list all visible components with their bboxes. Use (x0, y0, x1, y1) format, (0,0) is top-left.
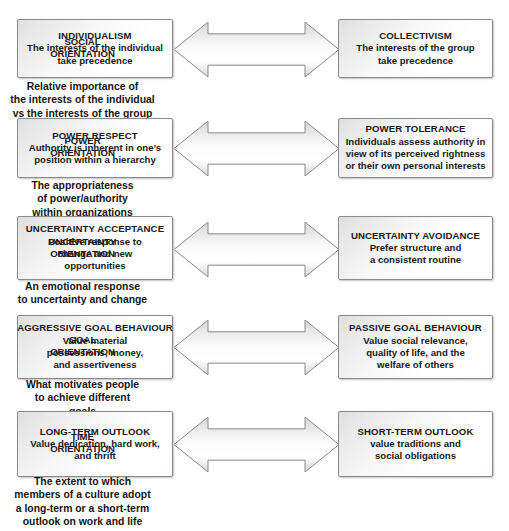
pole-title: POWER RESPECT (52, 130, 138, 142)
pole-description-line: possessions, money, (47, 347, 143, 359)
pole-box-left-power-orientation: POWER RESPECTAuthority is inherent in on… (17, 118, 173, 178)
orientation-caption-power-orientation: The appropriatenessof power/authoritywit… (0, 179, 173, 219)
pole-description-line: Prefer structure and (370, 242, 462, 254)
pole-description-line: social obligations (375, 450, 456, 462)
caption-line: An emotional response (0, 280, 173, 293)
double-headed-arrow-icon (174, 320, 339, 375)
pole-title: LONG-TERM OUTLOOK (40, 426, 150, 438)
pole-description-line: change and new (58, 248, 133, 260)
pole-title: COLLECTIVISM (379, 30, 452, 42)
pole-description-line: Authority is inherent in one’s (29, 142, 161, 154)
pole-box-left-goal-orientation: AGGRESSIVE GOAL BEHAVIOURValue materialp… (17, 315, 173, 379)
pole-title: SHORT-TERM OUTLOOK (358, 426, 474, 438)
double-headed-arrow-icon (174, 22, 339, 77)
pole-description-line: welfare of others (377, 359, 454, 371)
pole-box-left-uncertainty-orientation: UNCERTAINTY ACCEPTANCEPositive response … (17, 216, 173, 280)
pole-description-line: Value social relevance, (363, 335, 468, 347)
pole-description-line: view of its perceived rightness (346, 148, 486, 160)
double-headed-arrow-icon (174, 417, 339, 472)
pole-description-line: and assertiveness (53, 359, 136, 371)
pole-description-line: take precedence (378, 55, 453, 67)
caption-line: to uncertainty and change (0, 293, 173, 306)
pole-description-line: The interests of the group (356, 42, 474, 54)
double-arrow-uncertainty-orientation (174, 222, 339, 277)
double-headed-arrow-icon (174, 222, 339, 277)
pole-description-line: or their own personal interests (345, 160, 485, 172)
pole-box-left-time-orientation: LONG-TERM OUTLOOKValue dedication, hard … (17, 411, 173, 477)
pole-box-right-time-orientation: SHORT-TERM OUTLOOKvalue traditions andso… (338, 411, 493, 477)
caption-line: What motivates people (0, 378, 173, 391)
orientation-caption-time-orientation: The extent to whichmembers of a culture … (0, 475, 173, 528)
caption-line: The appropriateness (0, 179, 173, 192)
double-arrow-power-orientation (174, 121, 339, 176)
pole-description-line: position within a hierarchy (34, 154, 156, 166)
pole-title: UNCERTAINTY ACCEPTANCE (26, 223, 164, 235)
pole-title: PASSIVE GOAL BEHAVIOUR (349, 322, 482, 334)
pole-title: UNCERTAINTY AVOIDANCE (351, 230, 480, 242)
caption-line: Relative importance of (0, 80, 173, 93)
caption-line: the interests of the individual (0, 93, 173, 106)
pole-title: AGGRESSIVE GOAL BEHAVIOUR (17, 322, 173, 334)
pole-description-line: opportunities (64, 260, 125, 272)
pole-description-line: Value material (63, 335, 128, 347)
pole-box-right-power-orientation: POWER TOLERANCEIndividuals assess author… (338, 118, 493, 178)
pole-description-line: quality of life, and the (366, 347, 465, 359)
caption-line: a long-term or a short-term (0, 502, 173, 515)
pole-box-right-goal-orientation: PASSIVE GOAL BEHAVIOURValue social relev… (338, 315, 493, 379)
pole-description-line: a consistent routine (370, 254, 461, 266)
double-arrow-goal-orientation (174, 320, 339, 375)
caption-line: The extent to which (0, 475, 173, 488)
pole-description-line: The interests of the individual (27, 42, 163, 54)
caption-line: of power/authority (0, 192, 173, 205)
orientation-diagram: INDIVIDUALISMThe interests of the indivi… (0, 0, 509, 531)
pole-description-line: Value dedication, hard work, (30, 438, 160, 450)
pole-box-right-social-orientation: COLLECTIVISMThe interests of the groupta… (338, 19, 493, 78)
pole-title: INDIVIDUALISM (58, 30, 131, 42)
pole-box-right-uncertainty-orientation: UNCERTAINTY AVOIDANCEPrefer structure an… (338, 216, 493, 280)
caption-line: outlook on work and life (0, 515, 173, 528)
orientation-caption-uncertainty-orientation: An emotional responseto uncertainty and … (0, 280, 173, 307)
double-headed-arrow-icon (174, 121, 339, 176)
caption-line: members of a culture adopt (0, 488, 173, 501)
pole-description-line: Positive response to (48, 236, 142, 248)
double-arrow-social-orientation (174, 22, 339, 77)
pole-title: POWER TOLERANCE (366, 123, 466, 135)
double-arrow-time-orientation (174, 417, 339, 472)
pole-description-line: and thrift (74, 450, 116, 462)
pole-description-line: take precedence (57, 55, 132, 67)
pole-description-line: Individuals assess authority in (346, 136, 486, 148)
pole-description-line: value traditions and (370, 438, 461, 450)
pole-box-left-social-orientation: INDIVIDUALISMThe interests of the indivi… (17, 19, 173, 78)
caption-line: to achieve different (0, 391, 173, 404)
orientation-caption-social-orientation: Relative importance ofthe interests of t… (0, 80, 173, 120)
